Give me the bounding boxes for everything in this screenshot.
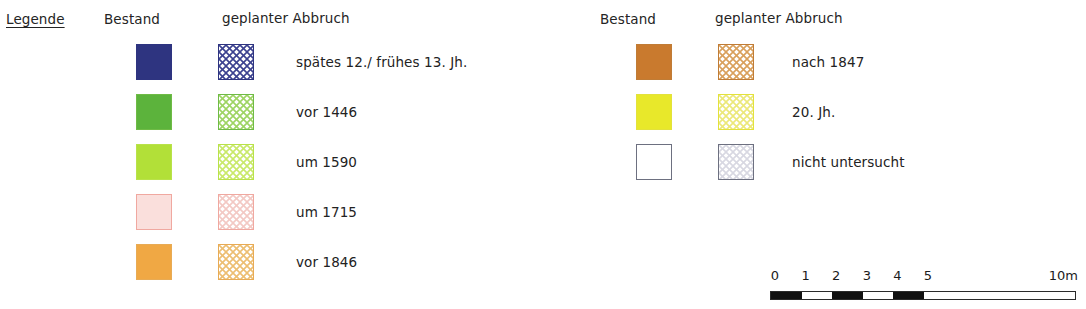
column-header-abbruch-right: geplanter Abbruch [715,10,843,26]
scale-bar-segment-filled [771,292,802,299]
legend: Legende Bestand geplanter Abbruch Bestan… [0,0,1086,309]
legend-swatch-solid [136,144,172,180]
legend-swatch-solid [136,244,172,280]
legend-swatch-hatched [718,144,754,180]
column-header-bestand-right: Bestand [600,11,656,27]
legend-item-label: spätes 12./ frühes 13. Jh. [296,54,467,70]
legend-swatch-hatched [218,244,254,280]
legend-item-label: nach 1847 [792,54,864,70]
scale-tick-label: 2 [832,268,840,283]
legend-swatch-solid [636,44,672,80]
column-header-abbruch-left: geplanter Abbruch [222,10,350,26]
legend-title: Legende [6,11,65,27]
legend-item-label: vor 1446 [296,104,357,120]
legend-swatch-hatched [718,44,754,80]
scale-bar-track [770,291,1076,300]
scale-end-label: 10m [1049,268,1078,283]
legend-swatch-solid [136,194,172,230]
legend-swatch-solid [636,144,672,180]
legend-swatch-hatched [218,94,254,130]
legend-swatch-solid [136,44,172,80]
scale-tick-label: 4 [893,268,901,283]
legend-swatch-hatched [218,194,254,230]
scale-bar-segment-filled [832,292,863,299]
legend-swatch-hatched [218,144,254,180]
scale-tick-label: 5 [924,268,932,283]
scale-tick-label: 0 [771,268,779,283]
legend-swatch-hatched [218,44,254,80]
legend-swatch-solid [636,94,672,130]
scale-tick-label: 1 [801,268,809,283]
scale-bar: 012345 10m [770,268,1078,306]
scale-tick-label: 3 [863,268,871,283]
column-header-bestand-left: Bestand [104,11,160,27]
legend-item-label: um 1715 [296,204,357,220]
legend-item-label: 20. Jh. [792,104,835,120]
legend-swatch-hatched [718,94,754,130]
legend-item-label: um 1590 [296,154,357,170]
legend-swatch-solid [136,94,172,130]
legend-item-label: nicht untersucht [792,154,905,170]
scale-bar-segment-filled [893,292,924,299]
legend-item-label: vor 1846 [296,254,357,270]
